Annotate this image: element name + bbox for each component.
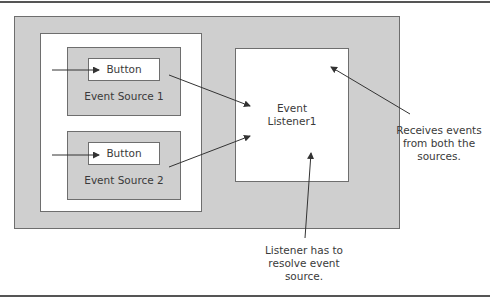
bottom-rule — [0, 295, 490, 297]
arrow-resolve-annotation — [305, 153, 311, 238]
arrow-source2-to-listener — [169, 136, 250, 167]
arrow-source1-to-listener — [169, 75, 250, 106]
arrow-receives-annotation — [331, 67, 410, 114]
arrows-layer — [0, 0, 490, 302]
